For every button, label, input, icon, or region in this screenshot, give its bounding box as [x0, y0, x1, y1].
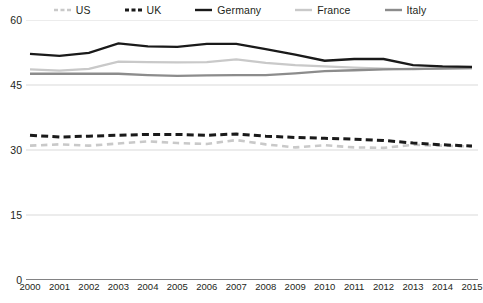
legend-swatch-france-icon: [295, 5, 312, 15]
legend-label: Italy: [407, 5, 427, 16]
y-axis-tick-label: 60: [10, 15, 22, 26]
legend-swatch-us-icon: [54, 5, 71, 15]
x-axis-tick-label: 2011: [344, 282, 364, 292]
x-axis-tick-label: 2013: [402, 282, 423, 292]
legend-item-france[interactable]: France: [295, 5, 350, 16]
x-axis-tick-label: 2004: [137, 282, 158, 292]
x-axis-tick-label: 2015: [461, 282, 482, 292]
x-axis-tick-label: 2003: [108, 282, 129, 292]
x-axis-tick-label: 2006: [196, 282, 217, 292]
legend-label: US: [76, 5, 91, 16]
x-axis: 2000200120022003200420052006200720082009…: [26, 282, 478, 300]
legend-swatch-italy-icon: [385, 5, 402, 15]
y-axis-tick-label: 45: [10, 80, 22, 91]
x-axis-tick-label: 2009: [285, 282, 306, 292]
plot-svg: [26, 20, 478, 280]
y-axis-tick-label: 30: [10, 145, 22, 156]
x-axis-tick-label: 2014: [432, 282, 453, 292]
series-line-germany: [30, 43, 472, 66]
legend-label: France: [317, 5, 350, 16]
plot-area: [26, 20, 478, 280]
x-axis-tick-label: 2010: [314, 282, 335, 292]
x-axis-tick-label: 2005: [167, 282, 188, 292]
legend-item-italy[interactable]: Italy: [385, 5, 427, 16]
legend-item-us[interactable]: US: [54, 5, 91, 16]
legend-label: Germany: [217, 5, 261, 16]
legend-item-uk[interactable]: UK: [125, 5, 162, 16]
legend-swatch-uk-icon: [125, 5, 142, 15]
x-axis-tick-label: 2000: [19, 282, 40, 292]
x-axis-tick-label: 2012: [373, 282, 394, 292]
x-axis-tick-label: 2001: [49, 282, 70, 292]
chart-legend: USUKGermanyFranceItaly: [0, 0, 480, 20]
y-axis: 604530150: [0, 0, 22, 303]
x-axis-tick-label: 2002: [78, 282, 99, 292]
x-axis-tick-label: 2008: [255, 282, 276, 292]
x-axis-tick-label: 2007: [226, 282, 247, 292]
legend-swatch-germany-icon: [195, 5, 212, 15]
series-line-italy: [30, 68, 472, 76]
legend-label: UK: [147, 5, 162, 16]
legend-item-germany[interactable]: Germany: [195, 5, 261, 16]
y-axis-tick-label: 15: [10, 210, 22, 221]
